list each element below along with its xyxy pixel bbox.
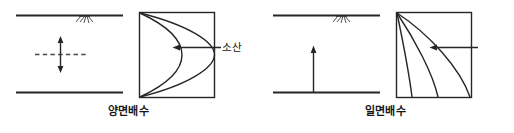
consolidation-isochrone-figure: 소산 양면배수 — [0, 0, 514, 133]
single-drainage-drawing — [257, 0, 514, 105]
panel-double-drainage: 소산 양면배수 — [0, 0, 257, 133]
double-drainage-drawing — [0, 0, 257, 105]
isochrone-curve-inner — [140, 13, 182, 97]
ground-surface-hatch-icon — [333, 16, 350, 23]
dissipation-leader-arrow-single — [430, 45, 479, 51]
caption-double-drainage: 양면배수 — [0, 105, 257, 119]
isochrone-curve-2 — [397, 13, 438, 97]
upward-arrow-icon — [311, 46, 317, 93]
isochrone-curve-3 — [397, 13, 470, 97]
caption-single-drainage: 일면배수 — [257, 105, 514, 119]
panel-single-drainage: 소산 일면배수 — [257, 0, 514, 133]
dissipation-label-double: 소산 — [222, 41, 242, 53]
ground-surface-hatch-icon — [76, 16, 93, 23]
isochrone-curve-outer — [140, 13, 215, 97]
